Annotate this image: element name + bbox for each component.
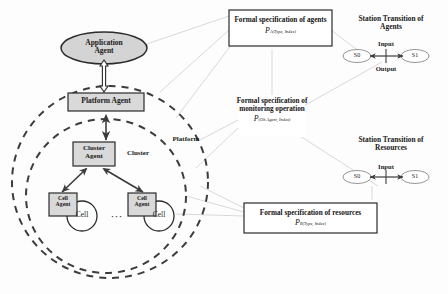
cell-agent-right-line2: Agent: [128, 201, 156, 207]
transition-agents-title: Station Transition of Agents: [336, 15, 446, 31]
cell-label-right: Cell: [144, 211, 174, 219]
cells-ellipsis: ···: [105, 212, 129, 222]
transition-resources-title: Station Transition of Resources: [336, 136, 446, 152]
spec-box-agents-line1: Formal specification of agents: [229, 16, 332, 24]
cell-agent-label-left: Cell Agent: [49, 195, 77, 208]
spec-box-monitoring-line1: Formal specification of: [232, 97, 312, 105]
spec-box-monitoring-formula: P(Ob.Agent, Index): [232, 115, 312, 124]
application-agent-label: Application Agent: [64, 39, 144, 55]
spec-box-monitoring-subscript: (Ob.Agent, Index): [259, 117, 291, 122]
platform-region-label: Platform: [163, 136, 209, 144]
cell-label-left: Cell: [67, 211, 97, 219]
platform-agent-label: Platform Agent: [68, 97, 144, 105]
application-agent-label-line2: Agent: [64, 47, 144, 55]
spec-box-agents-formula: PA(Type, Index): [229, 27, 332, 36]
spec-box-agents-subscript: A(Type, Index): [270, 29, 296, 34]
spec-box-resources-formula: PR(Type, Index): [244, 219, 377, 228]
diagram-canvas: Application Agent Platform Agent Cluster…: [0, 0, 448, 294]
transition-resources-title-line2: Resources: [336, 144, 446, 152]
transition-agents-output-label: Output: [364, 65, 408, 72]
transition-resources-input-label: Input: [366, 163, 406, 170]
spec-box-resources-line1: Formal specification of resources: [244, 209, 377, 217]
spec-box-resources-subscript: R(Type, Index): [300, 221, 326, 226]
spec-box-monitoring-line2: monitoring operation: [232, 105, 312, 113]
cluster-left-cell-arrow: [62, 169, 86, 192]
transition-agents-input-label: Input: [366, 40, 406, 47]
transition-resources-state-to: S1: [401, 173, 429, 179]
cluster-agent-label-line2: Agent: [73, 153, 115, 161]
cluster-region-label: Cluster: [118, 150, 158, 158]
cluster-agent-label: Cluster Agent: [73, 145, 115, 160]
transition-agents-title-line2: Agents: [336, 23, 446, 31]
transition-resources-state-from: S0: [343, 173, 371, 179]
transition-agents-state-from: S0: [343, 52, 371, 58]
cell-agent-left-line2: Agent: [49, 201, 77, 207]
spec-box-resources: Formal specification of resources PR(Typ…: [244, 209, 377, 228]
spec-box-monitoring: Formal specification of monitoring opera…: [232, 97, 312, 124]
spec-box-agents: Formal specification of agents PA(Type, …: [229, 16, 332, 36]
app-platform-block-arrow: [100, 60, 108, 92]
transition-agents-state-to: S1: [401, 52, 429, 58]
cell-agent-label-right: Cell Agent: [128, 195, 156, 208]
cluster-right-cell-arrow: [104, 169, 143, 192]
